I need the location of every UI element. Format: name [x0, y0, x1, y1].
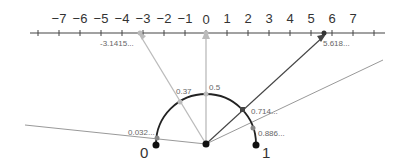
arc-points: [155, 92, 256, 141]
label-0032: 0.032...: [128, 128, 155, 137]
tick-label: 0: [202, 12, 209, 27]
tick-label: −1: [178, 11, 193, 26]
tick-label: −2: [157, 11, 172, 26]
center-point[interactable]: [203, 141, 210, 148]
tick-label: −7: [52, 11, 67, 26]
tick-label: 1: [223, 11, 230, 26]
label-neg-pi: -3.1415...: [100, 39, 134, 48]
point-neg-pi[interactable]: [138, 31, 143, 36]
label-05: 0.5: [209, 83, 221, 92]
tick-label: 4: [286, 11, 293, 26]
tick-label: −5: [94, 11, 109, 26]
label-endpoint-0: 0: [140, 144, 148, 161]
tick-label: 2: [244, 11, 251, 26]
label-endpoint-1: 1: [262, 144, 270, 161]
tick-label: 7: [349, 11, 356, 26]
tick-label: −4: [115, 11, 130, 26]
label-0714: 0.714...: [251, 107, 278, 116]
tick-label: 6: [328, 11, 335, 26]
label-037: 0.37: [176, 87, 192, 96]
point-zero: [204, 31, 209, 36]
ray-0714: [206, 36, 324, 144]
point-5618[interactable]: [322, 31, 327, 36]
tick-label: −3: [136, 11, 151, 26]
label-0886: 0.886...: [258, 129, 285, 138]
diagram-canvas: −7−6−5−4−3−2−101234567 -3.1415... 5.618.…: [0, 0, 405, 166]
ray-0032: [25, 125, 206, 144]
tick-label: −6: [73, 11, 88, 26]
tick-label: 3: [265, 11, 272, 26]
tick-label: 5: [307, 11, 314, 26]
endpoint-1[interactable]: [253, 142, 260, 149]
endpoint-0[interactable]: [153, 142, 160, 149]
label-5618: 5.618...: [323, 39, 350, 48]
